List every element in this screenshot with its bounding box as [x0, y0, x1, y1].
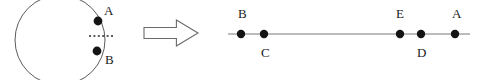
line-point-c-dot — [260, 30, 268, 38]
line-point-e-dot — [396, 30, 404, 38]
line-point-a-label: A — [452, 6, 462, 21]
line-point-e-label: E — [396, 6, 404, 21]
circle-outline — [15, 0, 105, 80]
line-point-c-label: C — [261, 45, 270, 60]
circle-point-b-label: B — [105, 52, 114, 67]
line-point-b-dot — [237, 30, 245, 38]
circle-diagram: A B — [15, 0, 114, 80]
circle-point-b-dot — [93, 47, 102, 56]
line-point-d-dot — [417, 30, 425, 38]
line-point-a-dot — [451, 30, 459, 38]
circle-point-a-dot — [94, 17, 103, 26]
line-point-b-label: B — [238, 6, 247, 21]
figure-svg: A B B C E D A — [0, 0, 484, 80]
diagram-canvas: A B B C E D A — [0, 0, 484, 80]
line-point-d-label: D — [417, 45, 426, 60]
right-arrow-icon — [144, 20, 198, 46]
circle-point-a-label: A — [104, 3, 114, 18]
number-line-diagram: B C E D A — [228, 6, 470, 60]
transformation-arrow — [144, 20, 198, 46]
